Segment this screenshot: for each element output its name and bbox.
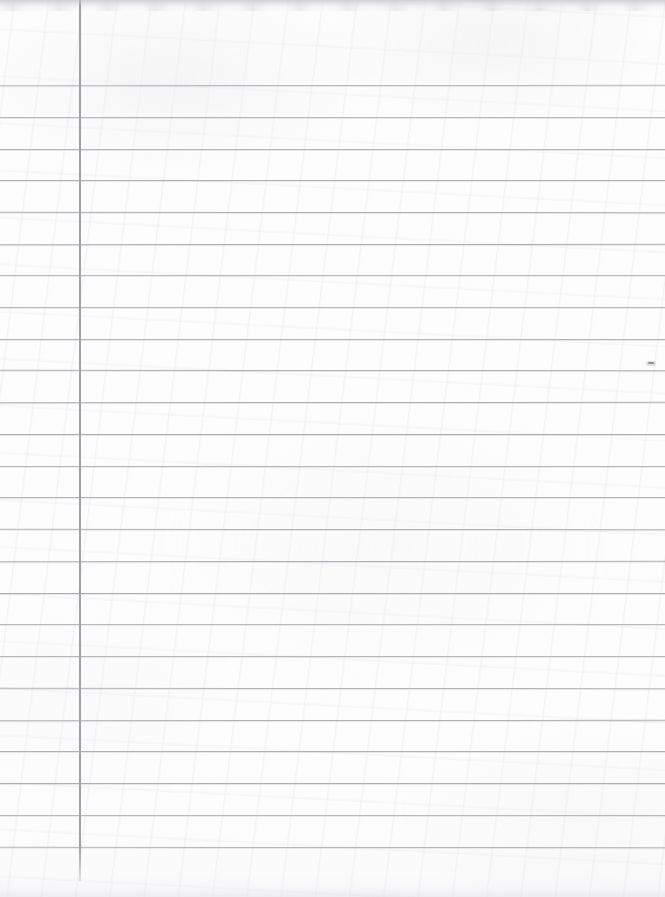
rule-line: [0, 497, 665, 498]
rule-line: [0, 688, 665, 689]
rule-line: [0, 434, 665, 435]
rule-line: [0, 656, 665, 657]
rule-line: [0, 529, 665, 530]
rule-line: [0, 783, 665, 784]
rule-line: [0, 339, 665, 340]
rule-line: [0, 815, 665, 816]
rule-line: [0, 275, 665, 276]
rule-line: [0, 402, 665, 403]
rule-line: [0, 751, 665, 752]
rule-line: [0, 149, 665, 150]
rule-line: [0, 212, 665, 213]
rule-line: [0, 624, 665, 625]
rule-line: [0, 561, 665, 562]
rule-line: [0, 593, 665, 594]
scanned-page: [0, 0, 665, 897]
rule-line: [0, 180, 665, 181]
right-margin-smudge: [648, 362, 654, 364]
rule-line: [0, 117, 665, 118]
paper-sheet: [0, 0, 665, 897]
margin-rule-line: [79, 0, 81, 881]
rule-line: [0, 847, 665, 848]
rule-line: [0, 307, 665, 308]
rule-line: [0, 85, 665, 86]
rule-line: [0, 720, 665, 721]
rule-line: [0, 466, 665, 467]
rule-line: [0, 370, 665, 371]
rule-line: [0, 244, 665, 245]
